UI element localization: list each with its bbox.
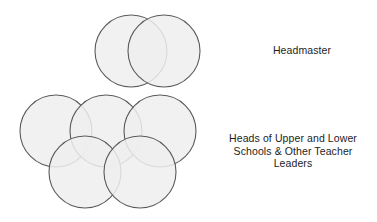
headmaster-circle-right bbox=[128, 15, 200, 87]
headmaster-label: Headmaster bbox=[228, 44, 376, 57]
headmaster-circle-group bbox=[95, 15, 200, 87]
diagram-canvas: Headmaster Heads of Upper and Lower Scho… bbox=[0, 0, 377, 222]
heads-circle-group bbox=[20, 95, 196, 208]
heads-circle-front-right bbox=[104, 136, 176, 208]
heads-of-schools-label: Heads of Upper and Lower Schools & Other… bbox=[209, 132, 377, 170]
circles-diagram bbox=[0, 0, 377, 222]
